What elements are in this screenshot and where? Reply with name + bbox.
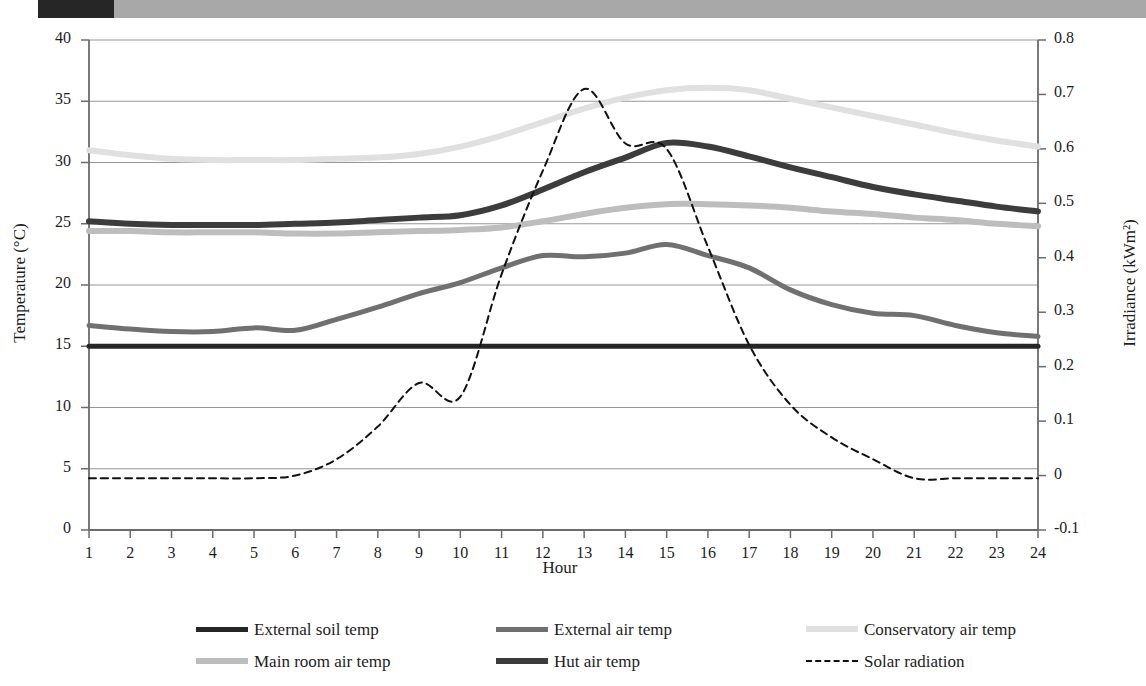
y-right-tick-label: 0.3 <box>1054 301 1102 319</box>
y-left-tick-label: 25 <box>31 213 71 231</box>
x-tick-label: 24 <box>1023 544 1053 562</box>
y-right-tick-label: 0.7 <box>1054 83 1102 101</box>
x-tick-label: 15 <box>652 544 682 562</box>
legend-row: Main room air tempHut air tempSolar radi… <box>196 646 1016 676</box>
legend-label: Main room air temp <box>254 653 390 670</box>
legend-swatch-icon <box>496 658 548 664</box>
y-left-tick-label: 20 <box>31 274 71 292</box>
y-right-tick-label: 0.6 <box>1054 138 1102 156</box>
x-tick-label: 16 <box>693 544 723 562</box>
legend-item[interactable]: Conservatory air temp <box>806 621 1016 638</box>
legend-swatch-icon <box>196 658 248 664</box>
legend-label: External air temp <box>554 621 672 638</box>
x-tick-label: 8 <box>363 544 393 562</box>
legend-row: External soil tempExternal air tempConse… <box>196 614 1016 644</box>
x-tick-label: 6 <box>280 544 310 562</box>
y-right-tick-label: 0.4 <box>1054 247 1102 265</box>
x-tick-label: 9 <box>404 544 434 562</box>
legend-item[interactable]: Main room air temp <box>196 653 390 670</box>
legend-item[interactable]: Solar radiation <box>806 653 965 670</box>
series-line <box>89 89 1038 480</box>
series-line <box>89 204 1038 234</box>
y-right-tick-label: 0.8 <box>1054 29 1102 47</box>
x-tick-label: 4 <box>198 544 228 562</box>
y-left-tick-label: 35 <box>31 90 71 108</box>
x-tick-label: 22 <box>940 544 970 562</box>
y-left-tick-label: 40 <box>31 29 71 47</box>
y-right-tick-label: 0.2 <box>1054 356 1102 374</box>
legend-label: Conservatory air temp <box>864 621 1016 638</box>
data-series <box>89 88 1038 480</box>
series-line <box>89 88 1038 160</box>
chart-legend: External soil tempExternal air tempConse… <box>196 614 1016 684</box>
x-tick-label: 3 <box>157 544 187 562</box>
legend-label: Hut air temp <box>554 653 640 670</box>
header-page-number <box>38 0 114 18</box>
x-tick-label: 5 <box>239 544 269 562</box>
legend-label: Solar radiation <box>864 653 965 670</box>
legend-item[interactable]: External soil temp <box>196 621 379 638</box>
series-line <box>89 142 1038 225</box>
line-chart-plot <box>0 18 1146 686</box>
y-right-tick-label: 0 <box>1054 465 1102 483</box>
y-right-tick-label: 0.1 <box>1054 410 1102 428</box>
legend-item[interactable]: Hut air temp <box>496 653 640 670</box>
y-left-tick-label: 30 <box>31 152 71 170</box>
legend-label: External soil temp <box>254 621 379 638</box>
chart-figure: Temperature (°C) Irradiance (kWm²) Hour … <box>0 18 1146 686</box>
x-tick-label: 1 <box>74 544 104 562</box>
x-tick-label: 13 <box>569 544 599 562</box>
legend-swatch-icon <box>196 627 248 632</box>
y-axis-left-title: Temperature (°C) <box>10 193 30 373</box>
legend-item[interactable]: External air temp <box>496 621 672 638</box>
y-left-tick-label: 10 <box>31 397 71 415</box>
series-line <box>89 245 1038 337</box>
legend-swatch-icon <box>806 660 858 662</box>
y-left-tick-label: 0 <box>31 519 71 537</box>
x-tick-label: 14 <box>610 544 640 562</box>
x-tick-label: 2 <box>115 544 145 562</box>
legend-swatch-icon <box>806 626 858 632</box>
x-tick-label: 23 <box>982 544 1012 562</box>
y-right-tick-label: -0.1 <box>1054 519 1102 537</box>
header-bar <box>38 0 1146 18</box>
legend-swatch-icon <box>496 627 548 632</box>
x-tick-label: 17 <box>734 544 764 562</box>
y-left-tick-label: 15 <box>31 335 71 353</box>
y-axis-right-title: Irradiance (kWm²) <box>1120 193 1140 373</box>
x-tick-label: 7 <box>322 544 352 562</box>
y-left-tick-label: 5 <box>31 458 71 476</box>
page-header <box>0 0 1146 18</box>
x-tick-label: 10 <box>445 544 475 562</box>
y-right-tick-label: 0.5 <box>1054 192 1102 210</box>
x-tick-label: 12 <box>528 544 558 562</box>
x-tick-label: 20 <box>858 544 888 562</box>
x-tick-label: 11 <box>487 544 517 562</box>
x-tick-label: 18 <box>775 544 805 562</box>
x-tick-label: 21 <box>899 544 929 562</box>
x-tick-label: 19 <box>817 544 847 562</box>
